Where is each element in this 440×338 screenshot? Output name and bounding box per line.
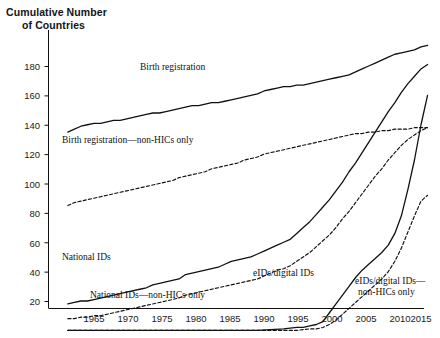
series-path-0 [68,45,428,132]
line-chart: Cumulative Number of Countries 180 160 1… [0,0,440,338]
axes [45,30,425,309]
series-path-2 [68,65,428,304]
series-path-1 [68,128,428,206]
series-path-4 [68,95,428,330]
series-paths [68,45,428,330]
series-path-3 [68,128,428,319]
series-path-5 [68,195,428,330]
plot-area [0,0,440,338]
